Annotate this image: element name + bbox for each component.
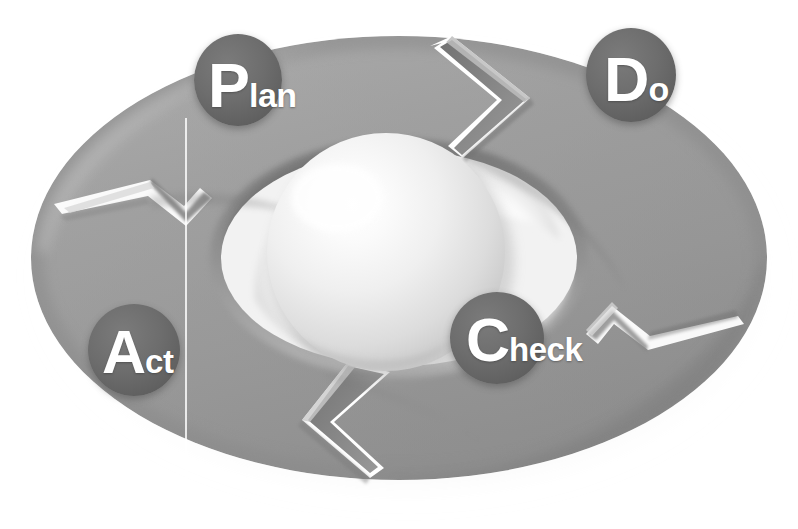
do-initial: D (604, 44, 648, 114)
plan-label: Plan (208, 54, 297, 117)
do-rest: o (648, 70, 668, 108)
label-plan[interactable]: Plan (190, 30, 340, 140)
plan-initial: P (208, 50, 249, 120)
check-initial: C (466, 306, 509, 374)
act-label: Act (102, 322, 173, 383)
act-rest: ct (145, 343, 173, 380)
label-check[interactable]: Check (446, 288, 636, 394)
label-act[interactable]: Act (84, 300, 214, 408)
check-rest: heck (509, 331, 582, 368)
sphere-specular-highlight (291, 164, 383, 232)
plan-rest: lan (249, 76, 297, 114)
check-label: Check (466, 310, 582, 371)
label-do[interactable]: Do (582, 24, 712, 136)
do-label: Do (604, 48, 669, 111)
pdca-diagram-canvas: Plan Do Check Act (0, 0, 798, 529)
act-initial: A (102, 318, 145, 386)
